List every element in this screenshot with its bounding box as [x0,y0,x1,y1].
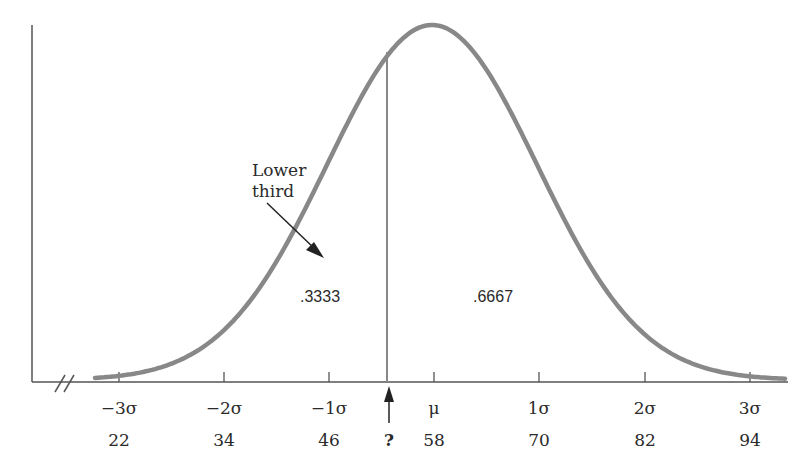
tick-value: 58 [423,430,445,450]
annotation-line2: third [252,181,294,201]
normal-curve [95,25,785,379]
tick-value: 94 [739,430,761,450]
tick-sigma: μ [428,398,439,418]
annotation-arrow-icon [267,203,324,258]
tick-value: 34 [213,430,235,450]
tick-value: 22 [108,430,130,450]
tick-value: 82 [634,430,656,450]
tick-sigma: 3σ [739,398,761,418]
cutoff-label: ? [384,430,394,450]
tick-value: 70 [528,430,550,450]
axis-break-icon [55,375,74,392]
area-left-label: .3333 [300,287,340,307]
cutoff-arrow-icon [384,386,394,423]
annotation-line1: Lower [252,160,306,180]
tick-sigma: 1σ [528,398,550,418]
x-ticks [119,372,750,382]
tick-sigma: 2σ [634,398,656,418]
tick-sigma: −2σ [206,398,243,418]
tick-sigma: −3σ [101,398,138,418]
area-right-label: .6667 [473,287,513,307]
tick-value: 46 [318,430,340,450]
tick-sigma: −1σ [311,398,348,418]
